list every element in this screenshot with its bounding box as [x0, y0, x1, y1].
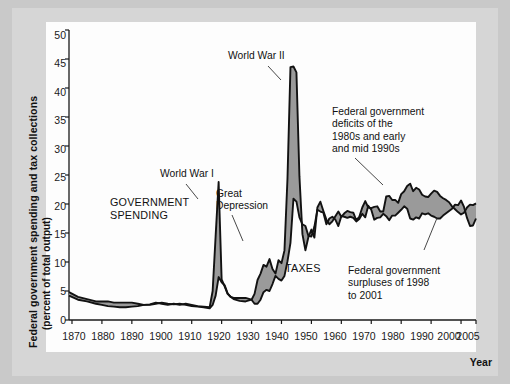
spending-tax-gap-band: [69, 67, 476, 309]
leader-great-depression: [232, 215, 243, 241]
chart-svg: [0, 0, 510, 384]
leader-ww1: [186, 184, 198, 199]
leader-ww2: [268, 66, 281, 80]
leader-surpluses: [424, 218, 437, 250]
leader-deficits: [355, 158, 383, 185]
figure-page: Federal government spending and tax coll…: [0, 0, 510, 384]
leader-lines: [186, 66, 437, 250]
